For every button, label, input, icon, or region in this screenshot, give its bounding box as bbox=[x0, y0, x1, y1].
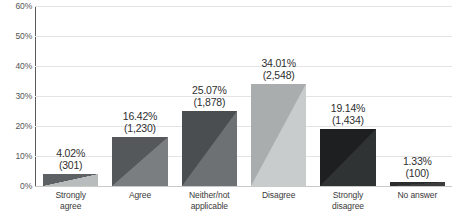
bar-percent-label: 16.42% bbox=[123, 110, 157, 122]
bar[interactable] bbox=[390, 182, 445, 186]
y-axis-tick-label: 30% bbox=[2, 91, 32, 101]
bar-series: 4.02%(301)16.42%(1,230)25.07%(1,878)34.0… bbox=[36, 6, 452, 186]
bar-column[interactable] bbox=[320, 6, 375, 186]
bar[interactable] bbox=[320, 129, 375, 186]
bar-percent-label: 4.02% bbox=[56, 147, 85, 159]
category-label-line: Strongly bbox=[313, 190, 382, 201]
bar-count-label: (1,434) bbox=[303, 114, 392, 126]
bar-column[interactable] bbox=[251, 6, 306, 186]
y-axis-tick-label: 60% bbox=[2, 1, 32, 11]
bar[interactable] bbox=[112, 137, 167, 186]
bar-fill bbox=[320, 129, 375, 186]
bar-data-label: 25.07%(1,878) bbox=[165, 84, 254, 108]
chart-title-cropped bbox=[0, 0, 454, 5]
bar-chart: 0%10%20%30%40%50%60% 4.02%(301)16.42%(1,… bbox=[0, 0, 454, 220]
bar-fill bbox=[390, 182, 445, 186]
x-axis-category-label: Disagree bbox=[244, 190, 313, 201]
bar-data-label: 1.33%(100) bbox=[373, 155, 454, 179]
category-label-line: No answer bbox=[383, 190, 452, 201]
bar-fill bbox=[112, 137, 167, 186]
category-label-line: Neither/not bbox=[175, 190, 244, 201]
bar-data-label: 16.42%(1,230) bbox=[95, 110, 184, 134]
x-axis-category-label: Agree bbox=[105, 190, 174, 201]
bar-percent-label: 1.33% bbox=[403, 155, 432, 167]
bar-data-label: 4.02%(301) bbox=[26, 147, 115, 171]
bar-percent-label: 25.07% bbox=[192, 84, 226, 96]
x-axis-category-label: Stronglyagree bbox=[36, 190, 105, 211]
bar[interactable] bbox=[182, 111, 237, 186]
y-axis-tick-label: 40% bbox=[2, 61, 32, 71]
bar[interactable] bbox=[43, 174, 98, 186]
bar-count-label: (2,548) bbox=[234, 69, 323, 81]
bar-count-label: (301) bbox=[26, 159, 115, 171]
bar-count-label: (1,230) bbox=[95, 122, 184, 134]
category-label-line: applicable bbox=[175, 201, 244, 212]
category-label-line: Disagree bbox=[244, 190, 313, 201]
bar-fill bbox=[182, 111, 237, 186]
bar[interactable] bbox=[251, 84, 306, 186]
bar-column[interactable] bbox=[112, 6, 167, 186]
bar-data-label: 34.01%(2,548) bbox=[234, 57, 323, 81]
x-axis-category-label: Stronglydisagree bbox=[313, 190, 382, 211]
category-label-line: Agree bbox=[105, 190, 174, 201]
y-axis-tick-label: 50% bbox=[2, 31, 32, 41]
y-axis-tick-label: 20% bbox=[2, 121, 32, 131]
y-axis-tick-label: 0% bbox=[2, 181, 32, 191]
category-label-line: Strongly bbox=[36, 190, 105, 201]
bar-fill bbox=[43, 174, 98, 186]
x-axis-category-label: Neither/notapplicable bbox=[175, 190, 244, 211]
bar-fill bbox=[251, 84, 306, 186]
category-label-line: disagree bbox=[313, 201, 382, 212]
bar-data-label: 19.14%(1,434) bbox=[303, 102, 392, 126]
bar-percent-label: 34.01% bbox=[261, 57, 295, 69]
bar-count-label: (1,878) bbox=[165, 96, 254, 108]
x-axis-category-labels: StronglyagreeAgreeNeither/notapplicableD… bbox=[36, 190, 452, 220]
x-axis-category-label: No answer bbox=[383, 190, 452, 201]
bar-count-label: (100) bbox=[373, 167, 454, 179]
gridline bbox=[35, 186, 452, 187]
bar-percent-label: 19.14% bbox=[331, 102, 365, 114]
category-label-line: agree bbox=[36, 201, 105, 212]
